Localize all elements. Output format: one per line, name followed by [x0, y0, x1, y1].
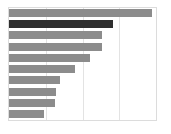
bar-row [9, 20, 156, 28]
bar[interactable] [9, 31, 102, 39]
bar[interactable] [9, 9, 152, 17]
bar-row [9, 9, 156, 17]
bar[interactable] [9, 88, 56, 96]
bar[interactable] [9, 43, 102, 51]
plot-area [8, 7, 157, 121]
bar-row [9, 54, 156, 62]
chart-xlabel [0, 0, 1, 1]
bar-row [9, 65, 156, 73]
bar-chart [0, 0, 171, 134]
bar[interactable] [9, 110, 44, 118]
bar[interactable] [9, 76, 60, 84]
bar-row [9, 88, 156, 96]
bar-row [9, 110, 156, 118]
chart-title [0, 0, 1, 1]
bar[interactable] [9, 99, 55, 107]
bar-row [9, 31, 156, 39]
bars-layer [9, 8, 156, 120]
bar-highlighted[interactable] [9, 20, 113, 28]
bar-row [9, 76, 156, 84]
chart-ylabel [0, 0, 1, 1]
bar[interactable] [9, 65, 75, 73]
bar[interactable] [9, 54, 90, 62]
bar-row [9, 43, 156, 51]
bar-row [9, 99, 156, 107]
